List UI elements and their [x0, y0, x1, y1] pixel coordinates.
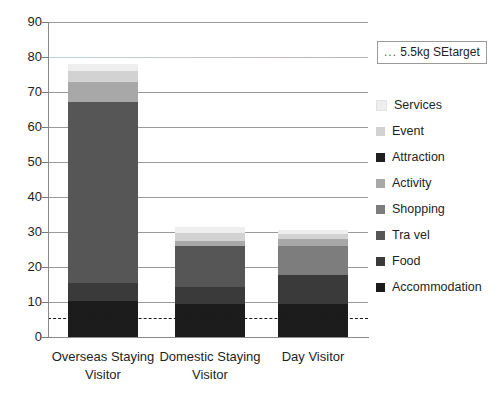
legend-item[interactable]: Accommodation [376, 274, 502, 300]
legend-label: Services [394, 98, 442, 112]
legend-item[interactable]: Tra vel [376, 222, 502, 248]
bar-segment[interactable] [68, 301, 138, 337]
chart-legend: ServicesEventAttractionActivityShoppingT… [376, 92, 502, 300]
bar-segment[interactable] [68, 283, 138, 301]
bar-segment[interactable] [175, 287, 245, 305]
legend-label: Food [392, 254, 421, 268]
legend-swatch [376, 231, 385, 240]
bar-segment[interactable] [68, 82, 138, 102]
target-dots: ... [384, 45, 397, 59]
legend-swatch [376, 127, 385, 136]
bar-column[interactable] [68, 22, 138, 337]
legend-item[interactable]: Food [376, 248, 502, 274]
bar-segment[interactable] [68, 102, 138, 283]
x-axis-category-label: Overseas StayingVisitor [43, 348, 163, 383]
legend-item[interactable]: Activity [376, 170, 502, 196]
bar-segment[interactable] [175, 304, 245, 337]
bar-segment[interactable] [278, 230, 348, 234]
bar-column[interactable] [175, 22, 245, 337]
legend-label: Shopping [392, 202, 445, 216]
legend-swatch [376, 205, 385, 214]
legend-label: Tra vel [392, 228, 430, 242]
y-axis-tick-label: 50 [12, 155, 42, 168]
y-axis-tick-label: 40 [12, 190, 42, 203]
y-axis-tick-label: 60 [12, 120, 42, 133]
bar-segment[interactable] [278, 246, 348, 275]
legend-swatch [376, 179, 385, 188]
legend-swatch [376, 283, 385, 292]
legend-item[interactable]: Shopping [376, 196, 502, 222]
bar-segment[interactable] [68, 64, 138, 71]
bar-segment[interactable] [175, 246, 245, 287]
target-reference-line [48, 318, 368, 319]
legend-swatch [376, 100, 387, 111]
bar-segment[interactable] [175, 233, 245, 241]
bar-segment[interactable] [278, 275, 348, 305]
target-label-text: 5.5kg SEtarget [400, 45, 479, 59]
legend-label: Activity [392, 176, 432, 190]
y-axis-tick-label: 30 [12, 225, 42, 238]
stacked-bar-chart: ServicesEventAttractionActivityShoppingT… [0, 0, 504, 398]
legend-label: Event [392, 124, 424, 138]
y-axis-line [48, 22, 49, 338]
bar-segment[interactable] [68, 71, 138, 82]
bar-column[interactable] [278, 22, 348, 337]
bar-segment[interactable] [175, 227, 245, 233]
legend-item[interactable]: Attraction [376, 144, 502, 170]
legend-label: Attraction [392, 150, 445, 164]
y-axis-tick-label: 70 [12, 85, 42, 98]
y-axis-tick-label: 10 [12, 295, 42, 308]
legend-label: Accommodation [392, 280, 482, 294]
y-axis-tick-label: 80 [12, 50, 42, 63]
x-axis-category-label: Day Visitor [253, 348, 373, 366]
legend-item[interactable]: Services [376, 92, 502, 118]
bar-segment[interactable] [175, 241, 245, 246]
target-legend-box: ... 5.5kg SEtarget [377, 41, 487, 64]
legend-item[interactable]: Event [376, 118, 502, 144]
bar-segment[interactable] [278, 304, 348, 337]
bar-segment[interactable] [278, 239, 348, 246]
y-axis-tick-label: 20 [12, 260, 42, 273]
x-axis-category-label: Domestic StayingVisitor [150, 348, 270, 383]
y-axis-tick-label: 0 [12, 330, 42, 343]
x-axis-line [48, 337, 369, 338]
legend-swatch [376, 257, 385, 266]
legend-swatch [376, 153, 385, 162]
y-axis-tick-label: 90 [12, 15, 42, 28]
bar-segment[interactable] [278, 234, 348, 239]
plot-area [48, 22, 368, 337]
